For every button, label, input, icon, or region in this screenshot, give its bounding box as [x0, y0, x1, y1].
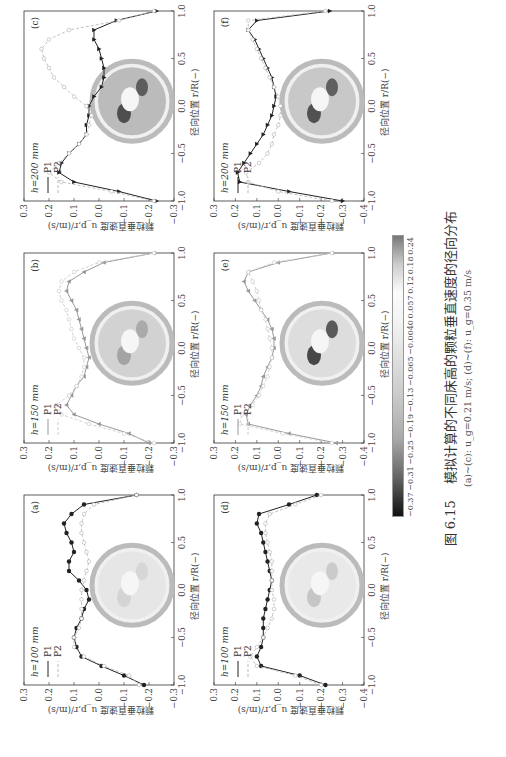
data-point-p1 [315, 493, 319, 497]
data-point-p2 [80, 607, 84, 611]
x-tick-label: 0.0 [177, 583, 187, 597]
data-point-p2 [40, 47, 44, 51]
x-tick-label: 0.5 [177, 536, 187, 550]
data-point-p2 [268, 76, 272, 80]
chart-panel-a: 0.30.20.10.0−0.1−0.2−0.3−1.0−0.50.00.51.… [18, 489, 208, 717]
figure-subcaption: (a)~(c): u_g=0.21 m/s; (d)~(f): u_g=0.35… [462, 0, 473, 757]
colorbar-tick: 0.18 [406, 257, 415, 275]
data-point-p1 [259, 531, 263, 535]
y-axis-label: 颗粒垂直速度 u_p,r/(m/s) [48, 462, 154, 475]
data-point-p2 [42, 57, 46, 61]
data-point-p2 [264, 318, 268, 322]
x-axis-label: 径向位置 r/R(−) [188, 310, 201, 378]
colorbar-gradient [392, 235, 404, 517]
x-tick-label: −1.0 [367, 191, 377, 212]
y-tick-label: 0.0 [94, 204, 104, 218]
x-tick-label: 1.0 [177, 4, 187, 18]
data-point-p1 [67, 569, 71, 573]
data-point-p2 [65, 308, 69, 312]
data-point-p2 [255, 645, 259, 649]
data-point-p2 [330, 441, 334, 445]
colorbar-tick: −0.37 [406, 492, 415, 517]
data-point-p2 [272, 607, 276, 611]
data-point-p2 [135, 493, 139, 497]
legend-height-label: h=100 mm [30, 627, 40, 677]
data-point-p1 [87, 597, 91, 601]
y-tick-label: 0.0 [273, 446, 283, 460]
data-point-p2 [257, 394, 261, 398]
y-tick-label: 0.0 [94, 688, 104, 702]
data-point-p2 [152, 441, 156, 445]
data-point-p2 [152, 251, 156, 255]
x-tick-label: −0.5 [367, 627, 377, 648]
data-point-p2 [82, 512, 86, 516]
legend-height-label: h=150 mm [30, 385, 40, 435]
y-tick-label: 0.2 [44, 688, 54, 702]
y-tick-label: 0.1 [252, 204, 262, 218]
caption-number: 图 6.15 [443, 500, 458, 546]
data-point-p2 [102, 664, 106, 668]
data-point-p2 [72, 270, 76, 274]
x-tick-label: 0.5 [177, 52, 187, 66]
data-point-p2 [97, 261, 101, 265]
colorbar-tick: −0.13 [406, 388, 415, 413]
data-point-p2 [60, 280, 64, 284]
data-point-p2 [268, 550, 272, 554]
data-point-p2 [47, 66, 51, 70]
data-point-p2 [80, 522, 84, 526]
data-point-p2 [270, 588, 274, 592]
legend-label-p1: P1 [43, 403, 53, 415]
data-point-p2 [281, 432, 285, 436]
data-point-p2 [80, 598, 84, 602]
data-point-p2 [85, 550, 89, 554]
x-tick-label: −1.0 [177, 675, 187, 696]
y-axis-label: 颗粒垂直速度 u_p,r/(m/s) [48, 704, 154, 717]
data-point-p2 [261, 636, 265, 640]
data-point-p2 [272, 261, 276, 265]
chart-panel-d: 0.30.20.10.0−0.1−0.2−0.3−0.4−1.0−0.50.00… [208, 489, 398, 717]
y-tick-label: 0.1 [69, 446, 79, 460]
data-point-p2 [264, 531, 268, 535]
data-point-p2 [152, 9, 156, 13]
x-tick-label: 1.0 [177, 246, 187, 260]
data-point-p2 [272, 598, 276, 602]
x-axis-label: 径向位置 r/R(−) [188, 68, 201, 136]
data-point-p1 [67, 559, 71, 563]
data-point-p2 [276, 190, 280, 194]
x-tick-label: 1.0 [177, 488, 187, 502]
data-point-p2 [246, 28, 250, 32]
data-point-p1 [261, 540, 265, 544]
data-point-p1 [261, 616, 265, 620]
data-point-p2 [272, 133, 276, 137]
x-tick-label: 1.0 [367, 4, 377, 18]
colorbar-ticks: −0.37−0.31−0.25−0.19−0.13−0.065−0.00400.… [406, 237, 415, 517]
data-point-p2 [330, 199, 334, 203]
y-axis-label: 颗粒垂直速度 u_p,r/(m/s) [238, 462, 344, 475]
data-point-p1 [263, 607, 267, 611]
y-tick-label: 0.3 [19, 204, 29, 218]
panel-tag: (a) [30, 501, 40, 513]
data-point-p2 [251, 280, 255, 284]
data-point-p2 [77, 626, 81, 630]
panel-tag: (e) [220, 259, 230, 271]
panel-tag: (c) [30, 17, 40, 29]
colorbar-tick: −0.31 [406, 466, 415, 491]
x-axis-label: 径向位置 r/R(−) [378, 68, 391, 136]
data-point-p2 [255, 289, 259, 293]
colorbar-tick: −0.19 [406, 414, 415, 439]
y-tick-label: 0.1 [252, 446, 262, 460]
x-tick-label: 1.0 [367, 246, 377, 260]
data-point-p2 [246, 19, 250, 23]
data-point-p1 [62, 521, 66, 525]
data-point-p2 [251, 38, 255, 42]
data-point-p2 [70, 327, 74, 331]
legend-label-p1: P1 [233, 161, 243, 173]
legend-label-p2: P2 [243, 403, 253, 415]
data-point-p2 [80, 588, 84, 592]
x-tick-label: 0.0 [177, 341, 187, 355]
x-tick-label: −0.5 [177, 143, 187, 164]
x-tick-label: −1.0 [367, 675, 377, 696]
x-tick-label: −0.5 [367, 385, 377, 406]
data-point-p1 [69, 512, 73, 516]
legend-label-p1: P1 [233, 645, 243, 657]
